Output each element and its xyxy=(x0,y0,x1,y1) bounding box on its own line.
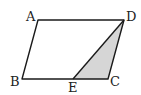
label-d: D xyxy=(126,9,136,24)
label-c: C xyxy=(110,74,120,89)
parallelogram-diagram: A D B E C xyxy=(0,0,141,95)
label-e: E xyxy=(68,80,78,95)
label-a: A xyxy=(25,9,36,24)
label-b: B xyxy=(10,74,20,89)
